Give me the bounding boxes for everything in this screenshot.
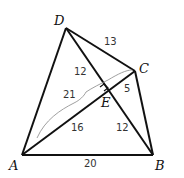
segment-AD — [22, 28, 66, 155]
diagonal-AC — [22, 71, 135, 155]
label-point-B: B — [154, 158, 165, 173]
label-point-D: D — [53, 13, 65, 28]
geometry-diagram: D C A B E 13 12 5 21 16 12 20 — [0, 0, 184, 178]
length-AC-brace: 21 — [63, 89, 76, 100]
label-point-E: E — [100, 95, 111, 110]
label-point-C: C — [139, 61, 149, 76]
length-AE: 16 — [71, 122, 84, 133]
length-DC: 13 — [104, 36, 117, 47]
length-DE: 12 — [74, 66, 87, 77]
label-point-A: A — [8, 158, 18, 173]
segment-DC — [66, 28, 135, 71]
length-AB: 20 — [84, 158, 97, 169]
length-EC: 5 — [124, 83, 130, 94]
length-EB: 12 — [116, 122, 129, 133]
